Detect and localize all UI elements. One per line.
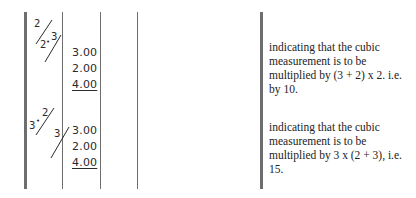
description-2: indicating that the cubic measurement is…: [269, 120, 414, 176]
description-line: measurement is to be: [269, 134, 414, 148]
column-rule-values-right: [100, 12, 101, 189]
value-1: 3.00: [72, 46, 97, 60]
value-1: 3.00: [72, 124, 97, 138]
description-line: 15.: [269, 162, 414, 176]
column-rule-left-outer: [24, 12, 27, 189]
column-rule-description-left: [260, 12, 263, 189]
description-line: indicating that the cubic: [269, 120, 414, 134]
description-line: measurement is to be: [269, 54, 414, 68]
slash-mark-icon: [49, 126, 71, 160]
value-3: 4.00: [72, 78, 97, 92]
description-line: multiplied by 3 x (2 + 3), i.e.: [269, 148, 414, 162]
value-2: 2.00: [72, 140, 97, 154]
value-3: 4.00: [72, 156, 97, 170]
slash-mark-icon: [44, 34, 64, 64]
value-2: 2.00: [72, 62, 97, 76]
description-line: multiplied by (3 + 2) x 2. i.e.: [269, 68, 414, 82]
description-1: indicating that the cubic measurement is…: [269, 40, 414, 96]
description-line: by 10.: [269, 82, 414, 96]
description-line: indicating that the cubic: [269, 40, 414, 54]
column-rule-empty-right: [137, 12, 138, 189]
